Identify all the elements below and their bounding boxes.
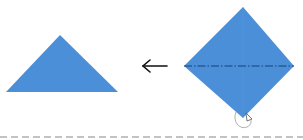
result-triangle [6, 35, 118, 92]
origami-diagram [0, 0, 303, 140]
start-diamond [184, 7, 294, 118]
left-arrow-icon [143, 60, 167, 72]
